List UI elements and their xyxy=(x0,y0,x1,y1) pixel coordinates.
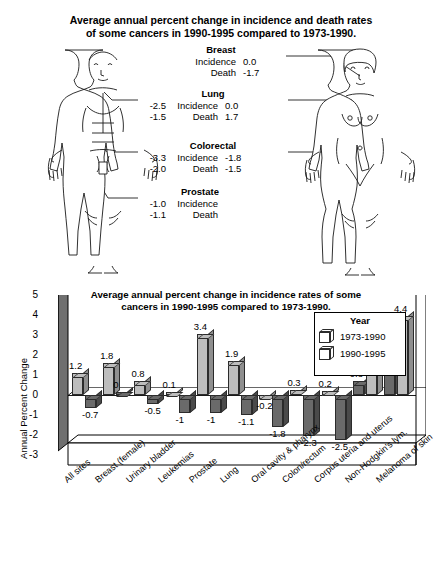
bar-1990-1995 xyxy=(210,395,221,413)
bar-value-label: 1.9 xyxy=(225,348,238,359)
male-incidence-value: -1.0 xyxy=(140,198,166,210)
bar-1990-1995 xyxy=(353,381,364,395)
row-label-incidence: Incidence xyxy=(184,56,240,68)
bar-value-label: 1.2 xyxy=(69,360,82,371)
callout-breast: Breast Incidence0.0 Death-1.7 xyxy=(158,44,284,79)
chart-legend: Year 1973-1990 1990-1995 xyxy=(314,312,406,376)
y-axis-tick: 4 xyxy=(20,310,38,320)
legend-item-0: 1973-1990 xyxy=(315,329,405,343)
row-label-incidence: Incidence xyxy=(166,100,222,112)
female-body-diagram xyxy=(300,46,420,278)
bar-value-label: -1 xyxy=(207,414,215,425)
row-label-incidence: Incidence xyxy=(166,198,222,210)
bar-1973-1990 xyxy=(322,391,333,395)
bar-value-label: 0.2 xyxy=(319,378,332,389)
anatomical-diagram-panel: Average annual percent change in inciden… xyxy=(0,0,442,285)
male-death-value: -2.0 xyxy=(140,163,166,175)
callout-colorectal: Colorectal -3.3Incidence-1.8 -2.0Death-1… xyxy=(140,140,286,175)
callout-site-label: Prostate xyxy=(140,186,260,198)
bar-value-label: 0.8 xyxy=(131,368,144,379)
row-label-death: Death xyxy=(166,209,222,221)
y-axis-tick: 2 xyxy=(20,350,38,360)
bar-1990-1995 xyxy=(272,395,283,427)
bar-value-label: -0.7 xyxy=(82,409,98,420)
bar-value-label: -0.5 xyxy=(144,405,160,416)
bar-value-label: 0 xyxy=(113,379,118,390)
female-death-value: -1.5 xyxy=(222,163,251,175)
y-axis-ticks: 543210-1-2-3 xyxy=(18,285,38,485)
callout-site-label: Colorectal xyxy=(140,140,286,152)
bar-1990-1995 xyxy=(116,392,127,395)
female-death-value: -1.7 xyxy=(240,67,269,79)
bar-1973-1990 xyxy=(134,381,145,395)
row-label-death: Death xyxy=(184,67,240,79)
legend-label: 1990-1995 xyxy=(340,348,385,359)
bar-1990-1995 xyxy=(85,395,96,408)
y-axis-tick: -3 xyxy=(20,450,38,460)
legend-title: Year xyxy=(315,315,405,326)
bar-1990-1995 xyxy=(241,395,252,415)
row-label-death: Death xyxy=(166,111,222,123)
bar-value-label: -0.2 xyxy=(256,400,272,411)
legend-label: 1973-1990 xyxy=(340,331,385,342)
bar-chart-panel: Average annual percent change in inciden… xyxy=(0,285,442,583)
plot-area: 1.2-0.71.800.8-0.50.1-13.4-11.9-1.1-0.2-… xyxy=(58,295,426,475)
male-incidence-value: -2.5 xyxy=(140,100,166,112)
bar-1973-1990 xyxy=(259,395,270,399)
bar-1990-1995 xyxy=(147,395,158,404)
bar-value-label: 1.8 xyxy=(100,350,113,361)
bar-1973-1990 xyxy=(197,334,208,395)
bar-value-label: -1.8 xyxy=(269,428,285,439)
male-death-value: -1.1 xyxy=(140,209,166,221)
y-axis-tick: 5 xyxy=(20,290,38,300)
callout-site-label: Breast xyxy=(158,44,284,56)
y-axis-tick: 1 xyxy=(20,370,38,380)
bar-value-label: -1.1 xyxy=(238,416,254,427)
y-axis-tick: -1 xyxy=(20,410,38,420)
legend-swatch-1973-1990 xyxy=(319,329,334,343)
y-axis-tick: 0 xyxy=(20,390,38,400)
callout-lung: Lung -2.5Incidence0.0 -1.5Death1.7 xyxy=(140,88,286,123)
y-axis-tick: 3 xyxy=(20,330,38,340)
bar-value-label: 3.4 xyxy=(194,321,207,332)
bar-1973-1990 xyxy=(290,390,301,395)
y-axis-tick: -2 xyxy=(20,430,38,440)
bar-1990-1995 xyxy=(179,395,190,413)
bar-1990-1995 xyxy=(335,395,346,440)
legend-swatch-1990-1995 xyxy=(319,346,334,360)
callout-prostate: Prostate -1.0Incidence -1.1Death xyxy=(140,186,260,221)
bar-value-label: 0.3 xyxy=(287,377,300,388)
female-death-value: 1.7 xyxy=(222,111,251,123)
bar-1973-1990 xyxy=(228,361,239,395)
bar-1973-1990 xyxy=(166,392,177,395)
female-incidence-value: 0.0 xyxy=(222,100,251,112)
male-incidence-value: -3.3 xyxy=(140,152,166,164)
legend-item-1: 1990-1995 xyxy=(315,346,405,360)
bar-value-label: -1 xyxy=(176,414,184,425)
male-death-value: -1.5 xyxy=(140,111,166,123)
row-label-death: Death xyxy=(166,163,222,175)
row-label-incidence: Incidence xyxy=(166,152,222,164)
female-incidence-value: 0.0 xyxy=(240,56,269,68)
bar-value-label: 0.1 xyxy=(163,379,176,390)
bar-1973-1990 xyxy=(72,373,83,395)
callout-site-label: Lung xyxy=(140,88,286,100)
female-incidence-value: -1.8 xyxy=(222,152,251,164)
